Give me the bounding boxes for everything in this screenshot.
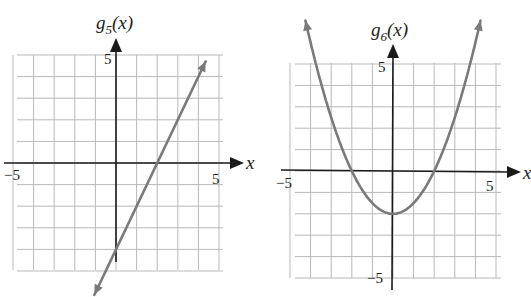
- x-axis: [281, 166, 521, 178]
- x-axis-label: x: [245, 152, 255, 173]
- y-axis-arrow-icon: [110, 38, 122, 52]
- x-axis-arrow-icon: [507, 166, 521, 178]
- g6-plot: g6(x) 5 −5 5 −5 x: [265, 0, 531, 297]
- y-axis: [110, 38, 122, 262]
- x-axis-arrow-icon: [230, 157, 244, 169]
- graph-g5: g5(x) 5 −5 5 x: [0, 0, 265, 297]
- x-min-tick-label: −5: [4, 167, 20, 183]
- g5-plot: g5(x) 5 −5 5 x: [0, 0, 265, 297]
- y-max-tick-label: 5: [104, 51, 112, 67]
- x-min-tick-label: −5: [276, 175, 292, 191]
- x-axis-label: x: [522, 162, 531, 183]
- x-max-tick-label: 5: [212, 171, 220, 187]
- y-axis-arrow-icon: [387, 44, 399, 58]
- graph-g6: g6(x) 5 −5 5 −5 x: [265, 0, 531, 297]
- y-min-tick-label: −5: [367, 270, 383, 286]
- g5-line: [94, 61, 205, 294]
- g6-title: g6(x): [371, 19, 408, 44]
- y-max-tick-label: 5: [378, 59, 386, 75]
- x-max-tick-label: 5: [486, 178, 494, 194]
- x-axis: [4, 157, 244, 169]
- g5-title: g5(x): [96, 12, 133, 37]
